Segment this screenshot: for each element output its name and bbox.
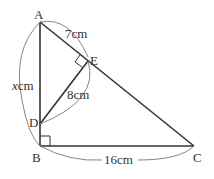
arc-bc-right bbox=[138, 146, 194, 160]
unit-cm: cm bbox=[18, 78, 34, 93]
label-a: A bbox=[34, 7, 44, 22]
arc-bc bbox=[40, 146, 102, 160]
side-ac bbox=[40, 22, 194, 146]
label-e: E bbox=[90, 53, 98, 68]
label-b: B bbox=[32, 150, 41, 165]
right-angle-e-icon bbox=[75, 55, 82, 67]
label-ae-length: 7cm bbox=[65, 26, 87, 41]
label-c: C bbox=[193, 150, 202, 165]
label-d: D bbox=[29, 115, 38, 130]
label-de-length: 8cm bbox=[67, 87, 89, 102]
geometry-diagram: A E D B C 7cm 8cm 16cm xcm bbox=[0, 0, 214, 179]
label-ab-length: xcm bbox=[11, 78, 34, 93]
right-angle-b-icon bbox=[40, 136, 50, 146]
label-bc-length: 16cm bbox=[104, 152, 133, 167]
